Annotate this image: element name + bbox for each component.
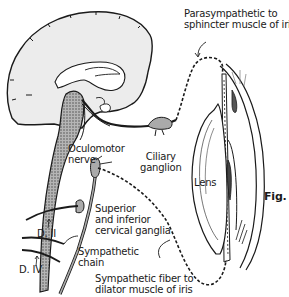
label-ciliary-ganglion: Ciliary ganglion [140, 151, 182, 173]
label-chain-line1: Sympathetic [78, 246, 139, 257]
label-lens: Lens [194, 177, 216, 188]
label-parasympathetic: Parasympathetic to sphincter muscle of i… [184, 8, 289, 30]
label-sympathetic-fiber: Sympathetic fiber to dilator muscle of i… [95, 273, 193, 295]
label-parasympathetic-line1: Parasympathetic to [184, 8, 289, 19]
iris-innervation-diagram [0, 0, 289, 297]
label-oculomotor-nerve: Oculomotor nerve [68, 143, 125, 165]
label-parasympathetic-line2: sphincter muscle of iris [184, 19, 289, 30]
label-oculomotor-line2: nerve [68, 154, 125, 165]
label-symp-fiber-line2: dilator muscle of iris [95, 284, 193, 295]
label-cervical-ganglia: Superior and inferior cervical ganglia [95, 203, 171, 236]
label-d4: D. IV [19, 264, 42, 275]
label-cervical-line1: Superior [95, 203, 171, 214]
figure-label: Fig. [264, 191, 287, 202]
label-oculomotor-line1: Oculomotor [68, 143, 125, 154]
label-cervical-line2: and inferior [95, 214, 171, 225]
ciliary-ganglion [148, 117, 172, 129]
label-sympathetic-chain: Sympathetic chain [78, 246, 139, 268]
label-chain-line2: chain [78, 257, 139, 268]
label-ciliary-line2: ganglion [140, 162, 182, 173]
label-symp-fiber-line1: Sympathetic fiber to [95, 273, 193, 284]
label-d2: D. II [37, 228, 56, 239]
sympathetic-chain [60, 170, 96, 294]
label-ciliary-line1: Ciliary [140, 151, 182, 162]
label-cervical-line3: cervical ganglia [95, 225, 171, 236]
